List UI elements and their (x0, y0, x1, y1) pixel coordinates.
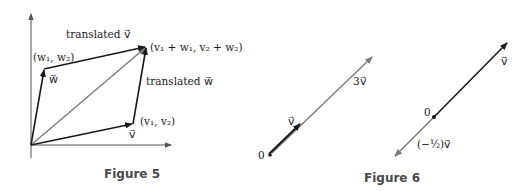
figure-6-right: 0 v⃗ (−½)v⃗ (395, 43, 508, 156)
figure-6-caption: Figure 6 (364, 171, 420, 185)
label-v-vector: v⃗ (288, 115, 295, 127)
w-vector-arrow (31, 70, 44, 145)
translated-w-arrow (133, 48, 146, 124)
figure-5-caption: Figure 5 (104, 167, 160, 181)
v-arrow (434, 43, 507, 117)
v-vector-arrow (31, 124, 132, 145)
label-w-vector: w⃗ (49, 73, 58, 85)
label-v-vector: v⃗ (501, 55, 508, 67)
label-v-point: (v₁, v₂) (140, 115, 175, 127)
label-translated-w: translated w⃗ (146, 75, 213, 87)
neg-half-v-arrow (395, 117, 434, 156)
label-three-v: 3v⃗ (353, 75, 367, 87)
figure-6: 0 v⃗ 3v⃗ 0 v⃗ (−½)v⃗ Figure 6 (258, 43, 508, 185)
label-origin: 0 (258, 149, 265, 161)
label-sum-point: (v₁ + w₁, v₂ + w₂) (150, 41, 243, 53)
label-neg-half-v: (−½)v⃗ (417, 138, 451, 150)
label-origin: 0 (424, 106, 431, 118)
origin-dot (432, 115, 436, 119)
figure-5: translated v⃗ (w₁, w₂) w⃗ (v₁ + w₁, v₂ +… (31, 14, 243, 181)
label-translated-v: translated v⃗ (66, 28, 131, 40)
figure-6-left: 0 v⃗ 3v⃗ (258, 57, 372, 161)
v-arrow (269, 124, 300, 154)
three-v-arrow (272, 57, 372, 153)
label-w-point: (w₁, w₂) (33, 51, 74, 63)
origin-dot (268, 153, 272, 157)
label-v-vector: v⃗ (129, 128, 136, 140)
figures-canvas: translated v⃗ (w₁, w₂) w⃗ (v₁ + w₁, v₂ +… (0, 0, 529, 191)
